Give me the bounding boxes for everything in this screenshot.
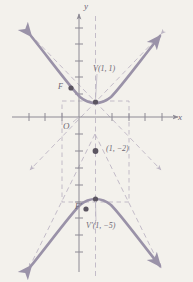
focus-lower-label: F′ (75, 203, 82, 211)
vertex-upper-label: V(1, 1) (93, 65, 115, 73)
x-axis-label: x (178, 113, 182, 122)
center-label: (1, −2) (106, 145, 129, 153)
hyperbola-plot (0, 0, 193, 282)
x-axis (12, 113, 178, 121)
vertex-lower-label: V′(1, −5) (86, 222, 115, 230)
point-center (93, 148, 99, 154)
origin-label: O (63, 122, 70, 131)
point-focus-upper (68, 85, 73, 90)
point-vertex-lower (93, 196, 98, 201)
y-axis-label: y (84, 2, 88, 11)
y-axis (75, 14, 83, 272)
hyperbola-figure: y x O V(1, 1) F (1, −2) F′ V′(1, −5) (0, 0, 193, 282)
focus-upper-label: F (58, 83, 63, 91)
point-vertex-upper (93, 99, 98, 104)
leader-line-vertex-lower (96, 201, 97, 221)
point-focus-lower (83, 206, 88, 211)
